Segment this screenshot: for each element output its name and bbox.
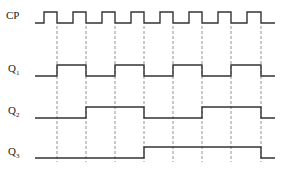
q2-waveform [35,107,275,118]
q1-waveform [35,65,275,76]
timing-diagram [0,0,295,173]
signal-label-q3: Q3 [8,145,19,160]
signal-label-cp: CP [6,9,19,21]
q3-waveform [35,147,275,158]
signal-label-q1: Q1 [8,62,19,77]
signal-label-q2: Q2 [8,104,19,119]
cp-waveform [35,12,275,23]
